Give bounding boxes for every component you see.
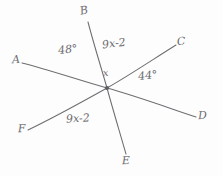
vertex-point xyxy=(105,86,109,90)
point-label-e: E xyxy=(122,155,130,166)
point-label-f: F xyxy=(18,123,26,134)
angle-label-44: 44° xyxy=(137,69,158,82)
vertex-variable-label: x xyxy=(103,68,109,78)
expression-label-bottom: 9x-2 xyxy=(66,112,90,125)
angle-label-48: 48° xyxy=(57,43,78,56)
point-label-c: C xyxy=(177,36,186,48)
figure-canvas xyxy=(0,0,223,176)
point-label-a: A xyxy=(12,54,21,66)
expression-label-top: 9x-2 xyxy=(101,37,126,51)
point-label-d: D xyxy=(198,110,207,121)
line-segment-AD xyxy=(22,63,196,117)
geometry-figure: A B C D E F 48° 44° 9x-2 9x-2 x xyxy=(0,0,223,176)
line-segment-CF xyxy=(28,45,176,130)
